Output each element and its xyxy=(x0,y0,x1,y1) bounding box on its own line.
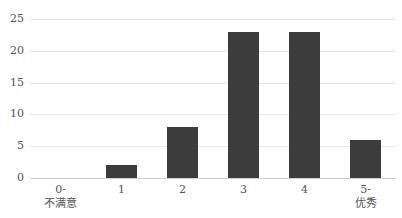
gridline xyxy=(30,83,396,84)
y-tick-label: 15 xyxy=(0,77,24,89)
x-tick-label: 4 xyxy=(275,183,335,197)
x-tick-label-line: 0- xyxy=(31,183,91,197)
bar xyxy=(167,127,198,178)
x-tick-label-line: 2 xyxy=(153,183,213,197)
y-tick-label: 20 xyxy=(0,45,24,57)
gridline xyxy=(30,19,396,20)
x-tick-label: 1 xyxy=(92,183,152,197)
gridline xyxy=(30,51,396,52)
x-tick-label-line: 5- xyxy=(336,183,396,197)
y-tick-label: 25 xyxy=(0,13,24,25)
gridline xyxy=(30,114,396,115)
gridline xyxy=(30,146,396,147)
x-axis-line xyxy=(30,178,396,179)
x-tick-label-line: 优秀 xyxy=(336,197,396,211)
x-tick-label-line: 3 xyxy=(214,183,274,197)
x-tick-label-line: 不满意 xyxy=(31,197,91,211)
x-tick-label: 0-不满意 xyxy=(31,183,91,211)
x-tick-label-line: 1 xyxy=(92,183,152,197)
bar xyxy=(228,32,259,178)
bar xyxy=(289,32,320,178)
bar xyxy=(106,165,137,178)
x-tick-label: 3 xyxy=(214,183,274,197)
x-tick-label: 5-优秀 xyxy=(336,183,396,211)
x-tick-label-line: 4 xyxy=(275,183,335,197)
y-tick-label: 10 xyxy=(0,108,24,120)
x-tick-label: 2 xyxy=(153,183,213,197)
bar xyxy=(350,140,381,178)
y-tick-label: 0 xyxy=(0,172,24,184)
y-tick-label: 5 xyxy=(0,140,24,152)
bar-chart: 05101520250-不满意12345-优秀 xyxy=(0,0,402,218)
